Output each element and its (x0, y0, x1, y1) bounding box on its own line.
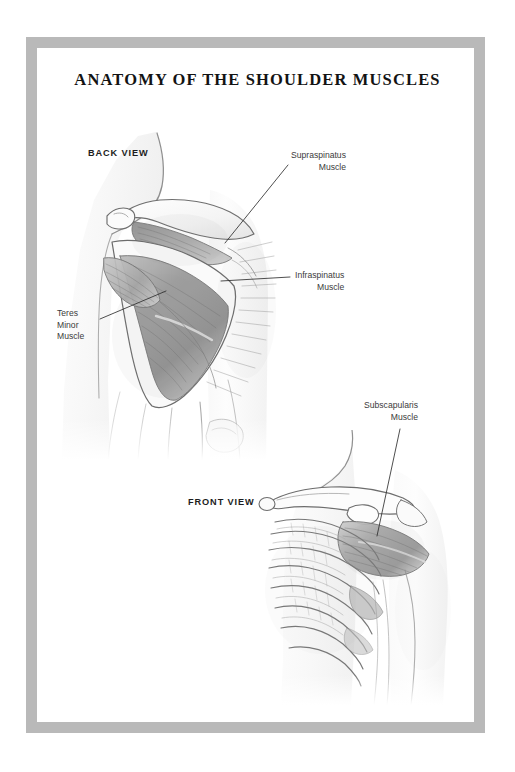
anatomy-poster: ANATOMY OF THE SHOULDER MUSCLES BACK VIE… (0, 0, 515, 772)
poster-frame (26, 37, 485, 733)
label-supraspinatus-line1: Supraspinatus (291, 150, 346, 162)
label-supraspinatus-muscle: Supraspinatus Muscle (291, 150, 346, 173)
page-title: ANATOMY OF THE SHOULDER MUSCLES (0, 70, 515, 90)
label-infraspinatus-line2: Muscle (295, 282, 344, 294)
label-infraspinatus-line1: Infraspinatus (295, 270, 344, 282)
label-subscapularis-muscle: Subscapularis Muscle (364, 400, 418, 423)
label-infraspinatus-muscle: Infraspinatus Muscle (295, 270, 344, 293)
label-teres-minor-line2: Minor (57, 320, 84, 332)
label-teres-minor-line1: Teres (57, 308, 84, 320)
label-supraspinatus-line2: Muscle (291, 162, 346, 174)
caption-back-view: BACK VIEW (88, 148, 149, 158)
label-subscapularis-line2: Muscle (364, 412, 418, 424)
caption-front-view: FRONT VIEW (188, 497, 255, 507)
label-subscapularis-line1: Subscapularis (364, 400, 418, 412)
label-teres-minor-line3: Muscle (57, 331, 84, 343)
label-teres-minor-muscle: Teres Minor Muscle (57, 308, 84, 343)
